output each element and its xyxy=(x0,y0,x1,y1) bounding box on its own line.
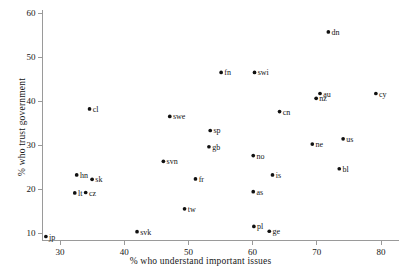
point-label-ge: ge xyxy=(272,227,280,236)
data-point-us xyxy=(341,137,345,141)
data-point-dots xyxy=(44,30,378,238)
scatter-plot-figure: 304050607080102030405060 jpltczhnskclsvk… xyxy=(0,0,401,277)
x-axis-title: % who understand important issues xyxy=(0,256,401,266)
y-axis-title: % who trust government xyxy=(17,47,27,207)
data-point-fn xyxy=(219,71,223,75)
data-point-swi xyxy=(253,71,257,75)
data-point-swe xyxy=(168,115,172,119)
point-label-sk: sk xyxy=(95,175,102,184)
point-label-no: no xyxy=(256,151,264,160)
y-tick-label-10: 10 xyxy=(19,228,36,238)
data-point-dn xyxy=(327,30,331,34)
data-point-jp xyxy=(44,235,48,239)
point-label-cy: cy xyxy=(379,89,387,98)
data-point-tw xyxy=(183,207,187,211)
data-point-fr xyxy=(194,177,198,181)
x-tick-label-40: 40 xyxy=(120,247,129,257)
data-point-cn xyxy=(278,110,282,114)
point-label-fn: fn xyxy=(224,68,231,77)
plot-axes-svg xyxy=(0,0,401,277)
point-label-au: au xyxy=(323,89,331,98)
x-tick-label-30: 30 xyxy=(56,247,65,257)
axis-lines xyxy=(43,10,400,241)
data-point-sp xyxy=(208,129,212,133)
data-point-nz xyxy=(314,97,318,101)
point-label-hn: hn xyxy=(80,170,88,179)
point-label-sp: sp xyxy=(213,126,220,135)
data-point-cl xyxy=(88,107,92,111)
data-point-as xyxy=(251,190,255,194)
point-label-tw: tw xyxy=(188,204,196,213)
point-label-svn: svn xyxy=(167,157,178,166)
point-label-is: is xyxy=(276,170,281,179)
point-label-swi: swi xyxy=(258,68,269,77)
point-label-jp: jp xyxy=(49,232,55,241)
data-point-svn xyxy=(162,159,166,163)
data-point-no xyxy=(251,154,255,158)
point-label-as: as xyxy=(256,187,263,196)
data-point-is xyxy=(271,173,275,177)
x-tick-label-70: 70 xyxy=(312,247,321,257)
point-label-ne: ne xyxy=(316,140,324,149)
x-tick-label-80: 80 xyxy=(377,247,386,257)
data-point-svk xyxy=(135,230,139,234)
data-point-gb xyxy=(207,145,211,149)
data-point-ne xyxy=(310,142,314,146)
point-label-cn: cn xyxy=(283,107,291,116)
y-tick-label-60: 60 xyxy=(19,8,36,18)
point-label-bl: bl xyxy=(342,164,348,173)
data-point-bl xyxy=(337,167,341,171)
data-point-sk xyxy=(90,177,94,181)
point-label-svk: svk xyxy=(140,227,151,236)
point-label-dn: dn xyxy=(332,27,340,36)
data-point-cz xyxy=(84,191,88,195)
data-point-pl xyxy=(252,225,256,229)
data-point-ge xyxy=(267,229,271,233)
data-point-lt xyxy=(73,191,77,195)
point-label-fr: fr xyxy=(199,174,204,183)
x-tick-label-50: 50 xyxy=(184,247,193,257)
point-label-cl: cl xyxy=(93,104,99,113)
data-point-cy xyxy=(374,92,378,96)
x-tick-label-60: 60 xyxy=(248,247,257,257)
point-label-us: us xyxy=(346,134,353,143)
point-label-gb: gb xyxy=(212,142,220,151)
data-point-hn xyxy=(75,173,79,177)
point-label-cz: cz xyxy=(89,188,96,197)
point-label-swe: swe xyxy=(173,112,185,121)
point-label-pl: pl xyxy=(257,222,263,231)
point-label-lt: lt xyxy=(78,188,82,197)
